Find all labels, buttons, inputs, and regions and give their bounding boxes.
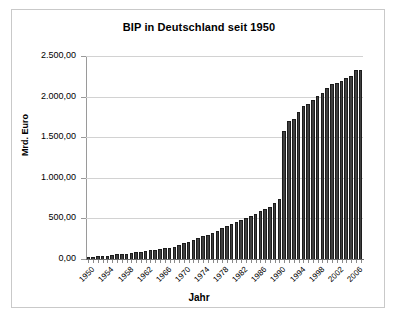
bar xyxy=(349,76,353,259)
bar xyxy=(340,81,344,259)
x-tick-mark xyxy=(303,260,304,263)
bar xyxy=(239,220,243,259)
x-tick-mark xyxy=(174,260,175,263)
x-tick-mark xyxy=(213,260,214,263)
bar xyxy=(101,256,105,259)
bar xyxy=(302,106,306,259)
x-tick-mark xyxy=(313,260,314,263)
x-tick-mark xyxy=(131,260,132,263)
bar xyxy=(211,233,215,259)
bar xyxy=(125,254,129,259)
x-tick-mark xyxy=(208,260,209,263)
x-tick-mark xyxy=(165,260,166,263)
bar xyxy=(187,242,191,259)
bar xyxy=(244,218,248,259)
chart-title: BIP in Deutschland seit 1950 xyxy=(12,21,386,33)
bar xyxy=(96,256,100,259)
bar xyxy=(115,254,119,259)
x-tick-mark xyxy=(322,260,323,263)
x-tick-mark xyxy=(198,260,199,263)
bar xyxy=(168,248,172,259)
chart-container: BIP in Deutschland seit 1950 Mrd. Euro J… xyxy=(11,9,385,308)
x-tick-mark xyxy=(146,260,147,263)
x-tick-mark xyxy=(318,260,319,263)
bar xyxy=(354,70,358,259)
plot-area xyxy=(86,56,363,259)
x-tick-mark xyxy=(112,260,113,263)
x-tick-mark xyxy=(251,260,252,263)
x-tick-mark xyxy=(256,260,257,263)
bar xyxy=(196,238,200,259)
x-tick-mark xyxy=(117,260,118,263)
x-tick-mark xyxy=(93,260,94,263)
bar xyxy=(130,253,134,259)
x-tick-mark xyxy=(107,260,108,263)
bar xyxy=(259,211,263,259)
x-tick-mark xyxy=(98,260,99,263)
bar xyxy=(163,248,167,259)
bar xyxy=(235,222,239,259)
bar xyxy=(87,257,91,259)
x-tick-mark xyxy=(184,260,185,263)
x-tick-mark xyxy=(203,260,204,263)
x-tick-mark xyxy=(122,260,123,263)
x-axis-title: Jahr xyxy=(12,292,386,303)
bar xyxy=(110,255,114,259)
x-tick-mark xyxy=(150,260,151,263)
x-tick-mark xyxy=(299,260,300,263)
x-tick-mark xyxy=(308,260,309,263)
x-tick-mark xyxy=(346,260,347,263)
x-tick-mark xyxy=(222,260,223,263)
x-tick-mark xyxy=(227,260,228,263)
bar xyxy=(206,235,210,259)
bar xyxy=(254,214,258,259)
bar xyxy=(330,84,334,259)
bar xyxy=(297,112,301,259)
bar xyxy=(173,247,177,259)
gridline xyxy=(86,56,363,57)
x-tick-mark xyxy=(337,260,338,263)
bar xyxy=(182,243,186,259)
bar xyxy=(282,131,286,259)
bar xyxy=(359,70,363,259)
bar xyxy=(153,250,157,260)
bar xyxy=(278,199,282,259)
x-tick-mark xyxy=(241,260,242,263)
x-tick-mark xyxy=(88,260,89,263)
x-tick-mark xyxy=(356,260,357,263)
y-tick-label: 2.500,00 xyxy=(10,51,76,60)
x-tick-mark xyxy=(294,260,295,263)
bar xyxy=(177,245,181,259)
x-tick-mark xyxy=(284,260,285,263)
bar xyxy=(201,236,205,259)
bar xyxy=(134,252,138,259)
bar xyxy=(321,93,325,259)
x-tick-mark xyxy=(279,260,280,263)
y-tick-label: 500,00 xyxy=(10,213,76,222)
bar xyxy=(91,257,95,259)
bar xyxy=(192,240,196,259)
bar xyxy=(287,121,291,259)
bar xyxy=(149,250,153,259)
y-tick-label: 1.500,00 xyxy=(10,132,76,141)
x-tick-mark xyxy=(270,260,271,263)
x-tick-mark xyxy=(170,260,171,263)
bar xyxy=(325,88,329,259)
x-tick-mark xyxy=(193,260,194,263)
bar xyxy=(249,216,253,259)
bar xyxy=(120,254,124,259)
x-tick-mark xyxy=(136,260,137,263)
x-tick-mark xyxy=(127,260,128,263)
bar xyxy=(311,100,315,259)
bar xyxy=(225,226,229,259)
x-tick-mark xyxy=(155,260,156,263)
bar xyxy=(220,228,224,259)
y-tick-label: 2.000,00 xyxy=(10,92,76,101)
bar xyxy=(273,203,277,259)
x-tick-mark xyxy=(160,260,161,263)
bar xyxy=(263,209,267,259)
x-tick-mark xyxy=(289,260,290,263)
x-tick-mark xyxy=(217,260,218,263)
bar xyxy=(158,249,162,259)
x-tick-mark xyxy=(351,260,352,263)
